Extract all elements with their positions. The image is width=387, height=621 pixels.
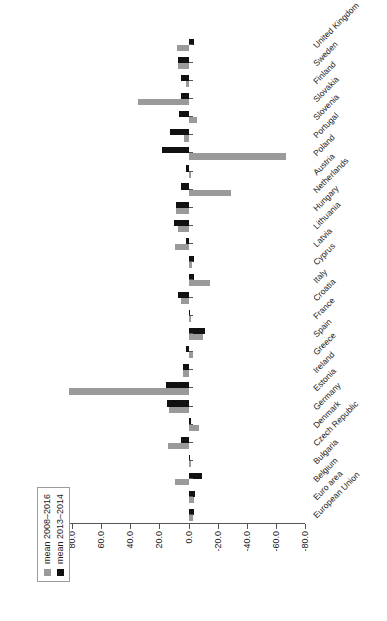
bar bbox=[189, 334, 204, 340]
axis-tick-label: 0.0 bbox=[184, 531, 194, 544]
bar bbox=[189, 352, 193, 358]
chart-plot-area: 100.080.060.040.020.00.0-20.0-40.0-60.0-… bbox=[43, 36, 305, 524]
bar bbox=[178, 226, 188, 232]
axis-tick-label: -40.0 bbox=[242, 531, 252, 552]
axis-tick-label: 40.0 bbox=[125, 531, 135, 549]
legend-item: mean 2008–2016 bbox=[42, 494, 52, 576]
axis-tick bbox=[276, 524, 277, 529]
bar bbox=[189, 461, 191, 467]
category-tick bbox=[189, 478, 193, 479]
category-tick bbox=[189, 189, 193, 190]
bar bbox=[177, 45, 189, 51]
category-tick bbox=[189, 171, 193, 172]
axis-tick-label: -60.0 bbox=[271, 531, 281, 552]
category-tick bbox=[189, 152, 193, 153]
category-tick bbox=[189, 406, 193, 407]
bar bbox=[181, 437, 189, 443]
bar bbox=[69, 388, 188, 394]
bar bbox=[189, 154, 287, 160]
axis-tick bbox=[247, 524, 248, 529]
axis-tick bbox=[218, 524, 219, 529]
axis-tick bbox=[130, 524, 131, 529]
bar bbox=[183, 370, 188, 376]
bar bbox=[178, 63, 188, 69]
category-tick bbox=[189, 44, 193, 45]
axis-tick bbox=[305, 524, 306, 529]
category-tick bbox=[189, 98, 193, 99]
axis-tick-label: -80.0 bbox=[300, 531, 310, 552]
bar bbox=[162, 147, 189, 153]
category-tick bbox=[189, 387, 193, 388]
bar bbox=[174, 220, 189, 226]
category-tick bbox=[189, 460, 193, 461]
legend-label: mean 2008–2016 bbox=[42, 494, 52, 564]
legend-label: mean 2013–2014 bbox=[55, 494, 65, 564]
bar bbox=[184, 135, 188, 141]
bar bbox=[189, 280, 210, 286]
category-tick bbox=[189, 496, 193, 497]
bar bbox=[181, 298, 189, 304]
category-tick bbox=[189, 207, 193, 208]
category-tick bbox=[189, 62, 193, 63]
bar bbox=[138, 99, 189, 105]
category-tick bbox=[189, 80, 193, 81]
bar bbox=[175, 479, 189, 485]
category-tick bbox=[189, 333, 193, 334]
bar bbox=[189, 316, 191, 322]
bar bbox=[189, 190, 231, 196]
category-tick bbox=[189, 369, 193, 370]
bar bbox=[176, 208, 188, 214]
bar bbox=[169, 407, 189, 413]
axis-tick bbox=[189, 524, 190, 529]
bar bbox=[189, 262, 193, 268]
bar bbox=[170, 129, 189, 135]
category-tick bbox=[189, 297, 193, 298]
bar bbox=[181, 184, 189, 190]
bar bbox=[181, 93, 189, 99]
category-tick bbox=[189, 514, 193, 515]
bar bbox=[176, 202, 188, 208]
bar bbox=[179, 111, 188, 117]
axis-tick bbox=[159, 524, 160, 529]
bar bbox=[181, 75, 188, 81]
bar bbox=[175, 244, 189, 250]
category-tick bbox=[189, 243, 193, 244]
category-tick bbox=[189, 261, 193, 262]
rotated-chart-stage: 100.080.060.040.020.00.0-20.0-40.0-60.0-… bbox=[29, 30, 359, 590]
bar bbox=[186, 81, 189, 87]
axis-tick-label: -20.0 bbox=[213, 531, 223, 552]
category-tick bbox=[189, 225, 193, 226]
bar bbox=[189, 172, 191, 178]
axis-tick-label: 20.0 bbox=[154, 531, 164, 549]
category-tick bbox=[189, 424, 193, 425]
category-tick bbox=[189, 134, 193, 135]
bar bbox=[166, 382, 189, 388]
bar bbox=[167, 400, 189, 406]
bar bbox=[189, 117, 197, 123]
bar bbox=[189, 425, 200, 431]
chart-legend: mean 2008–2016 mean 2013–2014 bbox=[37, 487, 70, 582]
bar bbox=[178, 57, 189, 63]
black-swatch-icon bbox=[57, 569, 64, 576]
axis-tick-label: 60.0 bbox=[96, 531, 106, 549]
gray-swatch-icon bbox=[44, 569, 51, 576]
bar bbox=[178, 292, 189, 298]
bar bbox=[189, 497, 194, 503]
category-tick bbox=[189, 315, 193, 316]
axis-tick bbox=[101, 524, 102, 529]
bar bbox=[189, 515, 193, 521]
category-tick bbox=[189, 442, 193, 443]
category-tick bbox=[189, 279, 193, 280]
bar bbox=[168, 443, 188, 449]
legend-item: mean 2013–2014 bbox=[55, 494, 65, 576]
axis-tick bbox=[72, 524, 73, 529]
category-tick bbox=[189, 351, 193, 352]
bar-rows: European UnionEuro areaBelgiumBulgariaCz… bbox=[43, 36, 305, 524]
category-tick bbox=[189, 116, 193, 117]
